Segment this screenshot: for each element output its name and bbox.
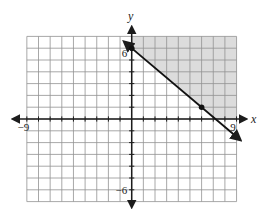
y-tick-label: −6 [115, 184, 127, 196]
coordinate-plane: xy−996−6 [0, 0, 271, 224]
y-tick-label: 6 [122, 47, 128, 59]
shaded-region [132, 36, 237, 119]
x-tick-label: 9 [230, 121, 236, 133]
x-tick-label: −9 [17, 121, 29, 133]
point-on-line [199, 104, 205, 110]
point-y-intercept [129, 45, 135, 51]
y-axis-label: y [127, 9, 134, 23]
x-axis-label: x [250, 112, 257, 126]
inequality-graph-figure: xy−996−6 [0, 0, 271, 224]
